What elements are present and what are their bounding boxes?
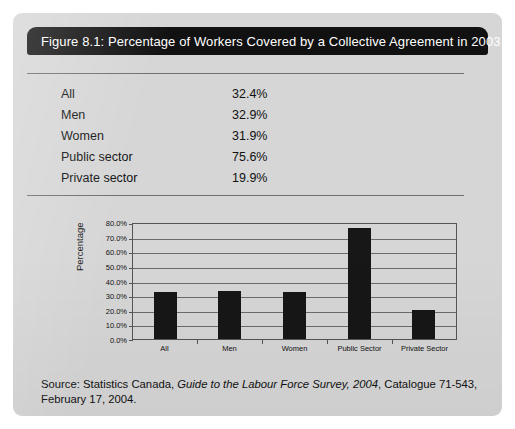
table-row: All32.4%	[27, 83, 488, 104]
source-italic-title: Guide to the Labour Force Survey, 2004	[177, 378, 378, 390]
y-axis-tick-label: 60.0%	[106, 248, 127, 257]
x-axis-tick-label: All	[132, 344, 197, 353]
x-axis-tick-label: Private Sector	[392, 344, 457, 353]
table-row-label: Public sector	[27, 150, 232, 164]
bar-chart: Percentage 80.0%70.0%60.0%50.0%40.0%30.0…	[27, 209, 488, 367]
y-axis-tick-label: 70.0%	[106, 233, 127, 242]
table-row-value: 75.6%	[232, 150, 267, 164]
table-row-label: Women	[27, 129, 232, 143]
y-axis-title: Percentage	[74, 222, 85, 271]
y-axis-tick-labels: 80.0%70.0%60.0%50.0%40.0%30.0%20.0%10.0%…	[87, 223, 131, 340]
table-rule-bottom	[27, 195, 464, 196]
table-row: Private sector19.9%	[27, 167, 488, 188]
table-row: Men32.9%	[27, 104, 488, 125]
table-row-label: Private sector	[27, 171, 232, 185]
table-row-value: 32.4%	[232, 87, 267, 101]
x-axis-tick-label: Public Sector	[327, 344, 392, 353]
bar-slot	[391, 224, 456, 339]
bar-slot	[262, 224, 327, 339]
bar	[154, 292, 177, 339]
data-table: All32.4%Men32.9%Women31.9%Public sector7…	[27, 73, 488, 196]
y-axis-tick-label: 80.0%	[106, 219, 127, 228]
bar	[218, 291, 241, 339]
bar	[412, 310, 435, 339]
y-axis-tick-label: 50.0%	[106, 262, 127, 271]
y-axis-tickmark	[129, 326, 133, 327]
y-axis-tickmark	[129, 283, 133, 284]
table-row-value: 32.9%	[232, 108, 267, 122]
table-row-label: Men	[27, 108, 232, 122]
table-row: Women31.9%	[27, 125, 488, 146]
bar-slot	[198, 224, 263, 339]
table-row-value: 31.9%	[232, 129, 267, 143]
source-note: Source: Statistics Canada, Guide to the …	[41, 377, 491, 407]
bar	[283, 292, 306, 339]
bar-slot	[133, 224, 198, 339]
table-body: All32.4%Men32.9%Women31.9%Public sector7…	[27, 74, 488, 195]
figure-card: Figure 8.1: Percentage of Workers Covere…	[13, 13, 502, 416]
y-axis-tickmark	[129, 297, 133, 298]
y-axis-tickmark	[129, 312, 133, 313]
y-axis-tickmark	[129, 268, 133, 269]
plot-area	[132, 223, 457, 340]
table-row-label: All	[27, 87, 232, 101]
y-axis-tick-label: 40.0%	[106, 277, 127, 286]
x-axis-tick-label: Men	[197, 344, 262, 353]
y-axis-tick-label: 0.0%	[110, 336, 127, 345]
source-prefix: Source: Statistics Canada,	[41, 378, 177, 390]
table-row: Public sector75.6%	[27, 146, 488, 167]
bars-layer	[133, 224, 456, 339]
bar-slot	[327, 224, 392, 339]
bar	[348, 228, 371, 339]
y-axis-tick-label: 20.0%	[106, 306, 127, 315]
y-axis-tick-label: 30.0%	[106, 292, 127, 301]
x-axis-tick-labels: AllMenWomenPublic SectorPrivate Sector	[132, 344, 457, 353]
figure-title: Figure 8.1: Percentage of Workers Covere…	[27, 34, 501, 49]
figure-title-bar: Figure 8.1: Percentage of Workers Covere…	[27, 27, 488, 55]
table-row-value: 19.9%	[232, 171, 267, 185]
y-axis-tick-label: 10.0%	[106, 321, 127, 330]
x-axis-tick-label: Women	[262, 344, 327, 353]
y-axis-tickmark	[129, 239, 133, 240]
y-axis-tickmark	[129, 224, 133, 225]
y-axis-tickmark	[129, 253, 133, 254]
